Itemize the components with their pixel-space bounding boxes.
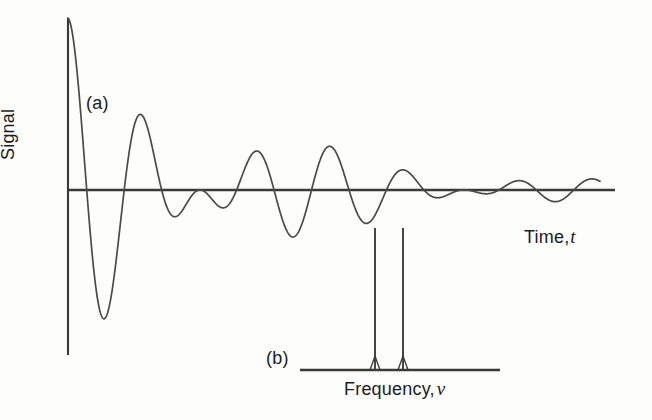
time-axis-label-text: Time, (524, 227, 569, 247)
frequency-axis-label: Frequency,ν (344, 378, 445, 400)
fid-signal-curve (68, 18, 600, 319)
panel-a-label: (a) (86, 93, 109, 114)
spectrum-peaks-group (370, 228, 408, 370)
panel-a-group (68, 18, 615, 355)
panel-b-group (300, 228, 500, 370)
figure-canvas (0, 0, 652, 420)
panel-b-label: (b) (266, 348, 289, 369)
frequency-axis-label-text: Frequency, (344, 379, 435, 399)
time-axis-label: Time,t (524, 226, 576, 248)
nu-variable-glyph: ν (435, 378, 446, 399)
time-variable-glyph: t (569, 226, 575, 247)
signal-axis-label: Signal (0, 70, 19, 160)
figure-container: (a) (b) Signal Time,t Frequency,ν (0, 0, 652, 420)
